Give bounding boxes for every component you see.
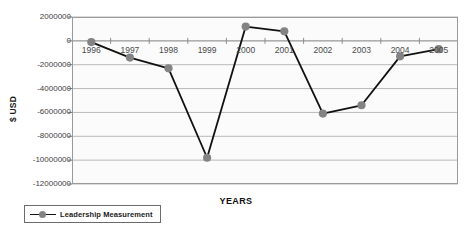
x-axis-tick-label: 2004 [391,45,410,55]
x-axis-tick-label: 1998 [159,45,178,55]
x-axis-tick-label: 1996 [82,45,101,55]
data-point-marker [203,154,211,162]
x-axis-tick-label: 2005 [429,45,448,55]
data-point-marker [280,27,288,35]
data-point-marker [164,64,172,72]
x-axis-tick-label: 2001 [275,45,294,55]
x-axis-tick-label: 2003 [352,45,371,55]
data-point-marker [319,110,327,118]
x-axis-tick-label: 2002 [313,45,332,55]
data-point-marker [242,22,250,30]
legend-line-marker-icon [30,210,56,219]
data-point-marker [357,101,365,109]
x-axis-tick-label: 2000 [236,45,255,55]
line-chart: $ USD 20000000-2000000-4000000-6000000-8… [0,0,472,233]
x-axis-tick-label: 1997 [120,45,139,55]
chart-legend: Leadership Measurement [24,205,161,223]
legend-item-label: Leadership Measurement [60,210,153,219]
x-axis-tick-label: 1999 [198,45,217,55]
